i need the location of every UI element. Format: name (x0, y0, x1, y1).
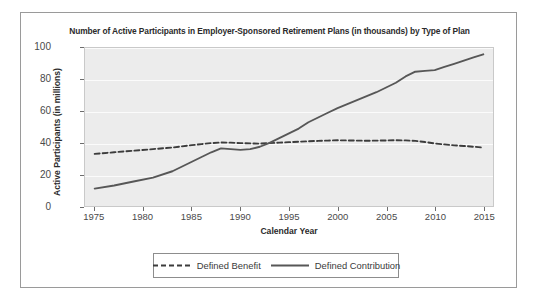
y-tick-label: 20 (11, 170, 51, 180)
y-tick-label: 40 (11, 138, 51, 148)
x-tick-label: 2005 (362, 211, 412, 222)
plot-wrapper: Active Participants (in millions) Calend… (21, 13, 518, 289)
x-tick-mark (143, 207, 144, 211)
legend-item-defined-benefit: Defined Benefit (152, 260, 261, 271)
series-line-defined-contribution (95, 54, 484, 188)
plot-area (84, 47, 494, 207)
x-tick-mark (240, 207, 241, 211)
x-tick-mark (435, 207, 436, 211)
x-tick-label: 1980 (118, 211, 168, 222)
x-axis-label: Calendar Year (84, 226, 494, 236)
y-tick-mark (80, 207, 84, 208)
y-tick-label: 80 (11, 74, 51, 84)
y-tick-label: 100 (11, 42, 51, 52)
solid-line-swatch-icon (270, 261, 310, 270)
x-tick-label: 2000 (313, 211, 363, 222)
legend-label-defined-benefit: Defined Benefit (197, 260, 261, 271)
x-tick-label: 1985 (166, 211, 216, 222)
x-tick-mark (484, 207, 485, 211)
x-tick-label: 2010 (410, 211, 460, 222)
x-tick-label: 2015 (459, 211, 509, 222)
x-tick-mark (94, 207, 95, 211)
legend-item-defined-contribution: Defined Contribution (270, 260, 400, 271)
x-tick-mark (289, 207, 290, 211)
x-tick-mark (338, 207, 339, 211)
x-tick-label: 1975 (69, 211, 119, 222)
chart-legend: Defined Benefit Defined Contribution (153, 253, 399, 278)
dashed-line-swatch-icon (152, 261, 192, 270)
series-line-defined-benefit (95, 140, 484, 154)
y-axis-label: Active Participants (in millions) (52, 52, 62, 212)
y-tick-label: 60 (11, 106, 51, 116)
legend-label-defined-contribution: Defined Contribution (315, 260, 400, 271)
x-tick-mark (191, 207, 192, 211)
x-tick-mark (387, 207, 388, 211)
x-tick-label: 1990 (215, 211, 265, 222)
chart-figure: Number of Active Participants in Employe… (20, 12, 517, 288)
series-layer (85, 48, 493, 206)
x-tick-label: 1995 (264, 211, 314, 222)
y-tick-label: 0 (11, 202, 51, 212)
